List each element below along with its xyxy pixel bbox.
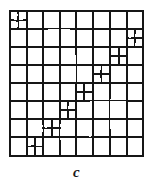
figure-caption-label: c xyxy=(0,162,153,182)
refined-cell-6-2 xyxy=(110,47,128,66)
refined-cell-4-4 xyxy=(76,83,94,102)
refined-cell-0-0 xyxy=(10,11,28,30)
refined-cell-5-3 xyxy=(93,65,111,84)
refined-cell-2-6 xyxy=(43,119,61,138)
refined-cell-7-1 xyxy=(127,29,144,48)
figure-container: c xyxy=(0,0,153,190)
grid-diagram xyxy=(0,0,153,165)
refined-cell-1-7 xyxy=(27,137,44,157)
grid-hline-4 xyxy=(10,83,143,84)
adaptive-grid-svg xyxy=(0,0,153,165)
grid-hline-1 xyxy=(10,29,143,30)
grid-hline-7 xyxy=(10,137,143,138)
refined-cell-3-5 xyxy=(60,101,77,120)
